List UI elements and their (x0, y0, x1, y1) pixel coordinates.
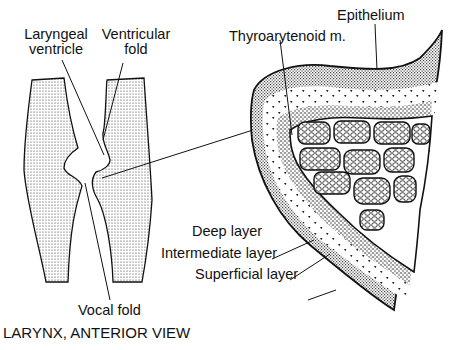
label-vocal-fold: Vocal fold (78, 303, 141, 318)
label-line: Ventricular (96, 27, 176, 42)
label-line: ventricle (20, 42, 92, 57)
label-superficial-layer: Superficial layer (195, 267, 298, 282)
label-line: Laryngeal (20, 27, 92, 42)
label-intermediate-layer: Intermediate layer (161, 246, 277, 261)
right-fold-wall (92, 78, 152, 282)
label-laryngeal-ventricle: Laryngeal ventricle (20, 27, 92, 57)
label-deep-layer: Deep layer (192, 224, 262, 239)
left-fold-wall (24, 78, 82, 282)
label-epithelium: Epithelium (337, 8, 405, 23)
diagram-title: LARYNX, ANTERIOR VIEW (3, 325, 190, 340)
label-line: fold (96, 42, 176, 57)
label-thyroarytenoid: Thyroarytenoid m. (229, 29, 346, 44)
label-ventricular-fold: Ventricular fold (96, 27, 176, 57)
left-vocal-tract (24, 60, 253, 300)
